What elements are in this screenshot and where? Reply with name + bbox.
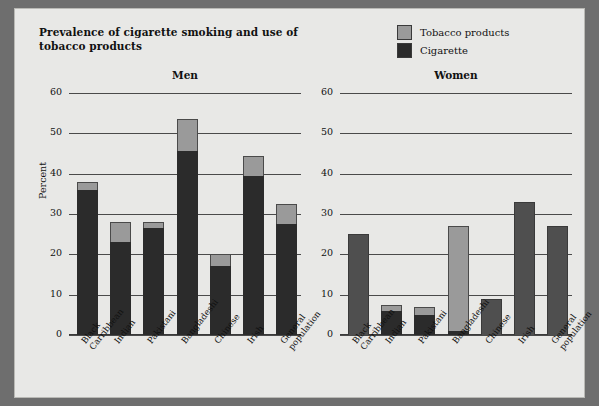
legend: Tobacco products Cigarette [397, 25, 509, 61]
plot-area-women: 6050403020100BlackCarribbeanIndianPakist… [340, 93, 572, 335]
y-axis-label: Percent [37, 162, 48, 199]
bar-segment-tobacco-products [77, 182, 98, 190]
bar-segment-tobacco-products [243, 156, 264, 176]
y-tick-label-50: 50 [50, 126, 62, 137]
bar-group [340, 93, 572, 335]
bar-black-carribbean [77, 182, 98, 335]
y-tick-label-20: 20 [321, 247, 333, 258]
panel-title-women: Women [340, 69, 572, 81]
y-tick-label-50: 50 [321, 126, 333, 137]
legend-swatch-tobacco-products [397, 25, 412, 40]
bar-group [69, 93, 301, 335]
bar-segment-tobacco-products [210, 254, 231, 266]
chart-title: Prevalence of cigarette smoking and use … [39, 25, 339, 53]
bar-segment-cigarette [77, 190, 98, 335]
plot-area-men: 6050403020100BlackCarribbeanIndianPakist… [69, 93, 301, 335]
y-tick-label-60: 60 [321, 86, 333, 97]
bar-irish [243, 156, 264, 335]
legend-swatch-cigarette [397, 43, 412, 58]
y-tick-label-10: 10 [50, 288, 62, 299]
y-tick-label-20: 20 [50, 247, 62, 258]
bar-segment-cigarette [514, 202, 535, 335]
legend-label-cigarette: Cigarette [420, 45, 468, 56]
bar-bangladeshi [177, 119, 198, 335]
bar-irish [514, 202, 535, 335]
bar-segment-tobacco-products [110, 222, 131, 242]
legend-label-tobacco-products: Tobacco products [420, 27, 509, 38]
bar-segment-cigarette [243, 176, 264, 335]
panel-men: Men 6050403020100BlackCarribbeanIndianPa… [69, 69, 301, 399]
legend-item-tobacco-products: Tobacco products [397, 25, 509, 40]
y-tick-label-60: 60 [50, 86, 62, 97]
panel-title-men: Men [69, 69, 301, 81]
y-tick-label-30: 30 [50, 207, 62, 218]
y-tick-label-0: 0 [327, 328, 333, 339]
legend-item-cigarette: Cigarette [397, 43, 509, 58]
bar-segment-tobacco-products [448, 226, 469, 331]
bar-segment-tobacco-products [177, 119, 198, 151]
bar-segment-tobacco-products [414, 307, 435, 315]
bar-general-population [276, 204, 297, 335]
y-tick-label-40: 40 [50, 167, 62, 178]
figure-panel: Prevalence of cigarette smoking and use … [14, 8, 585, 398]
y-tick-label-10: 10 [321, 288, 333, 299]
bar-segment-tobacco-products [276, 204, 297, 224]
y-tick-label-40: 40 [321, 167, 333, 178]
bar-segment-cigarette [177, 151, 198, 335]
y-tick-label-0: 0 [56, 328, 62, 339]
y-tick-label-30: 30 [321, 207, 333, 218]
panel-women: Women 6050403020100BlackCarribbeanIndian… [340, 69, 572, 399]
